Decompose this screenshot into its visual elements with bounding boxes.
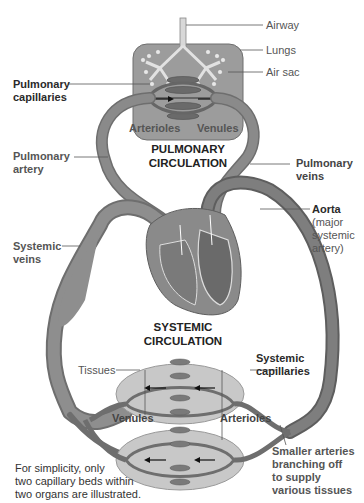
title-pulmonary-circulation-2: CIRCULATION xyxy=(140,157,236,170)
label-systemic-capillaries-2: capillaries xyxy=(256,365,310,377)
label-pulmonary-capillaries-1: Pulmonary xyxy=(13,78,70,90)
label-systemic-capillaries-1: Systemic xyxy=(256,352,304,364)
label-aorta-note-1: (major xyxy=(312,216,343,228)
label-venules-systemic: Venules xyxy=(112,412,154,424)
label-lungs: Lungs xyxy=(266,44,296,56)
label-smaller-arteries-3: to supply xyxy=(272,471,321,483)
label-tissues: Tissues xyxy=(78,364,116,376)
label-systemic-veins-1: Systemic xyxy=(13,240,61,252)
footnote-line-1: For simplicity, only xyxy=(15,462,105,474)
title-systemic-circulation-1: SYSTEMIC xyxy=(133,321,233,334)
label-pulmonary-artery-2: artery xyxy=(13,163,44,175)
heart xyxy=(146,208,241,314)
label-smaller-arteries-2: branching off xyxy=(272,458,342,470)
footnote-line-3: two organs are illustrated. xyxy=(15,488,141,500)
label-pulmonary-veins-1: Pulmonary xyxy=(296,157,353,169)
label-airway: Airway xyxy=(266,19,299,31)
label-pulmonary-capillaries-2: capillaries xyxy=(13,91,67,103)
label-arterioles-systemic: Arterioles xyxy=(220,412,271,424)
label-air-sac: Air sac xyxy=(266,66,300,78)
label-arterioles-pulmonary: Arterioles xyxy=(129,122,180,134)
label-aorta: Aorta xyxy=(312,203,341,215)
label-smaller-arteries-1: Smaller arteries xyxy=(272,445,355,457)
label-smaller-arteries-4: various tissues xyxy=(272,484,352,496)
footnote-line-2: two capillary beds within xyxy=(15,475,134,487)
label-aorta-note-3: artery) xyxy=(312,242,344,254)
tissue-bed-lower xyxy=(116,427,244,490)
label-venules-pulmonary: Venules xyxy=(197,122,239,134)
label-aorta-note-2: systemic xyxy=(312,229,355,241)
title-systemic-circulation-2: CIRCULATION xyxy=(133,335,233,348)
label-systemic-veins-2: veins xyxy=(13,253,41,265)
label-pulmonary-veins-2: veins xyxy=(296,170,324,182)
title-pulmonary-circulation-1: PULMONARY xyxy=(140,143,236,156)
label-pulmonary-artery-1: Pulmonary xyxy=(13,150,70,162)
